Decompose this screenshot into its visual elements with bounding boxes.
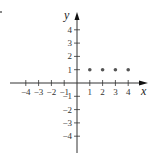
data-point <box>126 68 130 72</box>
data-point <box>88 68 92 72</box>
y-axis-arrow <box>75 12 80 20</box>
x-axis-label: x <box>140 84 147 98</box>
corner-mark <box>0 11 2 13</box>
x-tick-label: 2 <box>100 87 105 97</box>
y-tick-label: −2 <box>62 105 72 115</box>
y-tick-label: 2 <box>68 51 73 61</box>
x-tick-label: −4 <box>21 87 31 97</box>
y-tick-label: 1 <box>68 65 73 75</box>
y-tick-label: 3 <box>68 38 73 48</box>
data-point <box>101 68 105 72</box>
x-tick-label: 1 <box>88 87 93 97</box>
y-tick-label: −1 <box>62 91 72 101</box>
data-points <box>88 68 130 72</box>
x-tick-label: −3 <box>34 87 44 97</box>
x-tick-label: 4 <box>126 87 131 97</box>
y-tick-label: −3 <box>62 118 72 128</box>
y-tick-label: 4 <box>68 25 73 35</box>
y-tick-label: −4 <box>62 131 72 141</box>
x-tick-label: 3 <box>113 87 118 97</box>
chart: −4−3−2−11234−4−3−2−11234 x y <box>0 0 152 159</box>
y-axis-label: y <box>63 8 70 22</box>
x-tick-label: −2 <box>47 87 57 97</box>
axes <box>10 12 148 153</box>
data-point <box>114 68 118 72</box>
